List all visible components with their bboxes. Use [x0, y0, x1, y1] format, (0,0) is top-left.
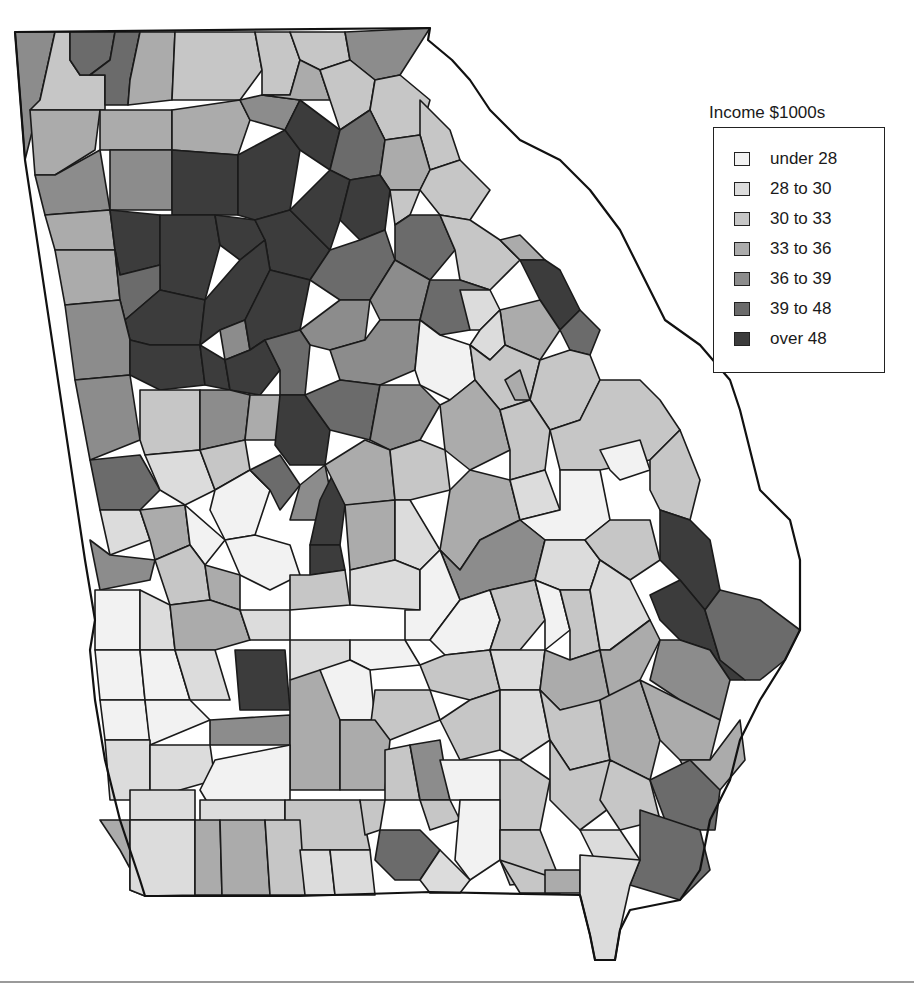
county-region [140, 390, 200, 455]
county-region [100, 110, 172, 150]
county-region [580, 855, 640, 960]
county-region [172, 150, 238, 215]
county-region [130, 820, 195, 896]
county-region [490, 650, 545, 690]
county-region [420, 160, 490, 220]
county-region [110, 150, 172, 210]
county-region [130, 790, 195, 820]
legend-item-over-48: over 48 [734, 329, 827, 349]
county-region [300, 850, 335, 895]
county-region [420, 800, 460, 830]
county-region [350, 560, 420, 610]
bottom-divider [0, 981, 914, 983]
county-region [390, 440, 450, 500]
county-region [490, 580, 545, 650]
legend-item-39-to-48: 39 to 48 [734, 299, 831, 319]
legend-item-33-to-36: 33 to 36 [734, 239, 831, 259]
legend-item-28-to-30: 28 to 30 [734, 179, 831, 199]
legend-label: 30 to 33 [770, 209, 831, 229]
county-region [340, 720, 390, 790]
county-region [238, 130, 300, 220]
legend-item-36-to-39: 36 to 39 [734, 269, 831, 289]
legend-item-30-to-33: 30 to 33 [734, 209, 831, 229]
county-region [500, 760, 550, 830]
county-region [370, 385, 440, 450]
legend-swatch-icon [734, 272, 750, 286]
legend-swatch-icon [734, 212, 750, 226]
legend-swatch-icon [734, 302, 750, 316]
county-region [440, 690, 500, 760]
legend-title: Income $1000s [709, 103, 825, 123]
county-region [420, 650, 500, 700]
legend-label: 33 to 36 [770, 239, 831, 259]
county-region [172, 100, 250, 155]
county-region [75, 375, 140, 460]
legend-label: 39 to 48 [770, 299, 831, 319]
legend-swatch-icon [734, 182, 750, 196]
county-region [330, 850, 375, 895]
county-region [380, 135, 430, 190]
legend-label: 28 to 30 [770, 179, 831, 199]
county-region [45, 210, 115, 250]
county-region [455, 800, 500, 880]
county-region [95, 650, 145, 700]
legend-label: over 48 [770, 329, 827, 349]
legend-item-under-28: under 28 [734, 149, 837, 169]
county-region [220, 820, 270, 895]
county-region [65, 300, 130, 380]
county-region [55, 250, 120, 305]
legend-swatch-icon [734, 332, 750, 346]
county-region [130, 340, 205, 390]
county-region [545, 870, 580, 893]
county-region [210, 715, 290, 745]
county-region [100, 700, 150, 740]
county-layer [15, 28, 800, 960]
county-region [160, 215, 220, 300]
legend-label: under 28 [770, 149, 837, 169]
county-region [265, 820, 305, 895]
county-region [95, 590, 140, 650]
county-region [345, 500, 395, 570]
county-region [245, 395, 280, 440]
county-region [145, 700, 210, 745]
legend-swatch-icon [734, 152, 750, 166]
county-region [235, 650, 290, 710]
legend-swatch-icon [734, 242, 750, 256]
county-region [172, 32, 262, 100]
legend: under 28 28 to 30 30 to 33 33 to 36 36 t… [713, 127, 885, 373]
legend-label: 36 to 39 [770, 269, 831, 289]
county-region [195, 820, 222, 895]
county-region [290, 570, 350, 610]
